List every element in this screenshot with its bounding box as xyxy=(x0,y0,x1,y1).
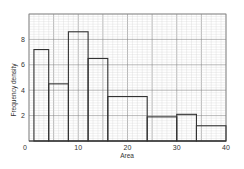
x-tick-label: 10 xyxy=(74,144,82,151)
x-axis-label: Area xyxy=(120,152,134,159)
x-tick-label: 30 xyxy=(173,144,181,151)
x-tick-label: 20 xyxy=(124,144,132,151)
origin-label: 0 xyxy=(23,144,27,151)
y-tick-label: 6 xyxy=(21,61,25,68)
y-tick-label: 4 xyxy=(21,87,25,94)
y-tick-label: 2 xyxy=(21,112,25,119)
y-tick-label: 8 xyxy=(21,36,25,43)
histogram-chart: 10203040 2468 0 Area Frequency density xyxy=(0,0,244,169)
y-axis-label: Frequency density xyxy=(10,63,18,117)
x-axis-ticks: 10203040 xyxy=(74,144,230,151)
y-axis-ticks: 2468 xyxy=(21,36,25,119)
x-tick-label: 40 xyxy=(222,144,230,151)
